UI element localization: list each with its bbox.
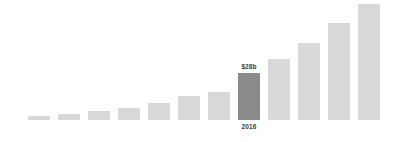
bar	[178, 96, 200, 120]
bar	[148, 103, 170, 120]
bar-value-label: $28b	[230, 63, 268, 71]
bar	[88, 111, 110, 120]
bar	[298, 43, 320, 120]
bar-highlighted	[238, 73, 260, 120]
bar	[328, 23, 350, 120]
chart-plot-area: $28b2016	[0, 0, 410, 142]
bar-category-label: 2016	[230, 123, 268, 131]
bar	[268, 59, 290, 120]
bar	[358, 4, 380, 120]
bar	[118, 108, 140, 120]
bar	[208, 92, 230, 120]
bar	[58, 114, 80, 120]
bar-chart: $28b2016	[0, 0, 410, 142]
bar	[28, 116, 50, 120]
